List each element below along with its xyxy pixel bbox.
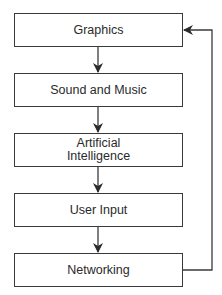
game-loop-diagram: Graphics Sound and Music Artificial Inte… (0, 0, 222, 295)
node-sound-and-music: Sound and Music (14, 73, 183, 107)
node-graphics: Graphics (14, 13, 183, 47)
node-artificial-intelligence: Artificial Intelligence (14, 133, 183, 167)
feedback-arrow-network-to-graphics (183, 30, 212, 270)
node-label: User Input (70, 204, 128, 217)
node-user-input: User Input (14, 193, 183, 227)
node-label-line-2: Intelligence (67, 150, 130, 163)
node-networking: Networking (14, 253, 183, 287)
node-label: Networking (67, 264, 130, 277)
node-label: Graphics (73, 24, 123, 37)
node-label: Sound and Music (50, 84, 147, 97)
